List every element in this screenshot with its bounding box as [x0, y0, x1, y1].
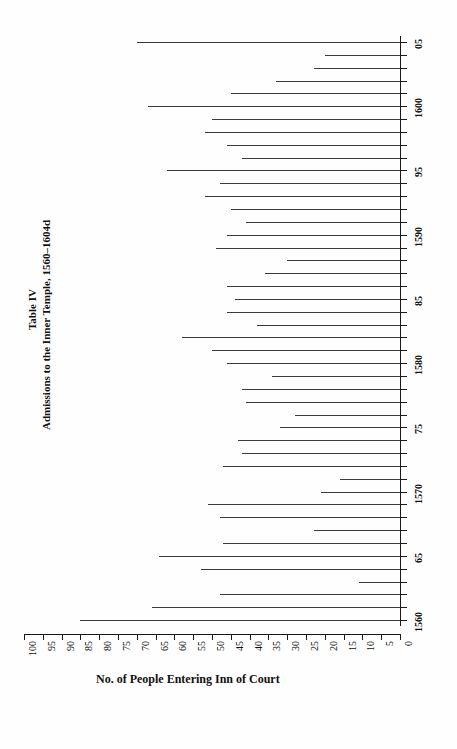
value-axis-tick-label: 50	[216, 641, 226, 651]
category-axis-tick	[401, 132, 407, 133]
category-axis-tick-label: 1560	[414, 612, 424, 632]
bar	[205, 196, 401, 197]
category-axis-tick	[401, 517, 407, 518]
bar	[265, 273, 400, 274]
category-axis-tick-label: 1590	[414, 227, 424, 247]
category-axis-tick	[401, 299, 407, 300]
value-axis-tick-label: 85	[84, 641, 94, 651]
value-axis-tick-label: 10	[366, 641, 376, 651]
category-axis-tick-label: 65	[414, 553, 424, 563]
value-axis-tick-label: 40	[254, 641, 264, 651]
value-axis-tick	[212, 634, 213, 640]
bar	[167, 170, 400, 171]
bar	[227, 145, 400, 146]
category-axis-tick	[401, 119, 407, 120]
category-axis-tick	[401, 81, 407, 82]
bar	[272, 376, 400, 377]
bar	[223, 543, 400, 544]
category-axis-tick	[401, 440, 407, 441]
bar	[242, 158, 400, 159]
value-axis-tick-label: 60	[178, 641, 188, 651]
bar	[246, 402, 400, 403]
bar	[242, 453, 400, 454]
value-axis-tick	[24, 634, 25, 640]
category-axis-tick	[401, 479, 407, 480]
category-axis-tick	[401, 569, 407, 570]
category-axis-tick	[401, 402, 407, 403]
bar	[231, 209, 400, 210]
category-axis-tick	[401, 325, 407, 326]
value-axis-tick	[381, 634, 382, 640]
category-axis-tick	[401, 594, 407, 595]
value-axis-tick	[62, 634, 63, 640]
bar	[227, 286, 400, 287]
category-axis-tick	[401, 106, 407, 107]
value-axis-tick-label: 20	[329, 641, 339, 651]
value-axis-tick	[80, 634, 81, 640]
bar	[212, 350, 400, 351]
bar	[314, 530, 401, 531]
value-axis-tick-label: 65	[160, 641, 170, 651]
category-axis-tick	[401, 273, 407, 274]
value-axis-tick-label: 90	[66, 641, 76, 651]
value-axis-tick-label: 80	[103, 641, 113, 651]
value-axis-tick	[287, 634, 288, 640]
category-axis-tick	[401, 543, 407, 544]
value-axis-tick	[174, 634, 175, 640]
category-axis-tick	[401, 556, 407, 557]
category-axis-tick	[401, 389, 407, 390]
value-axis-tick	[99, 634, 100, 640]
bar-chart-plot: 1009590858075706560555045403530252015105…	[0, 0, 457, 749]
bar	[220, 183, 401, 184]
bar	[227, 235, 400, 236]
value-axis-tick-label: 30	[291, 641, 301, 651]
category-axis-tick	[401, 620, 407, 621]
value-axis-tick-label: 5	[385, 641, 395, 646]
bar	[340, 479, 400, 480]
bar	[137, 42, 400, 43]
category-axis-tick	[401, 93, 407, 94]
category-axis-tick	[401, 68, 407, 69]
value-axis-tick-label: 100	[28, 641, 38, 656]
value-axis-tick-label: 55	[197, 641, 207, 651]
category-axis-tick	[401, 466, 407, 467]
value-axis-tick	[268, 634, 269, 640]
category-axis-tick	[401, 312, 407, 313]
value-axis-tick	[344, 634, 345, 640]
category-axis-tick	[401, 337, 407, 338]
category-axis-tick-label: 1580	[414, 355, 424, 375]
value-axis-tick	[193, 634, 194, 640]
bar	[276, 81, 400, 82]
value-axis-tick	[306, 634, 307, 640]
value-axis-tick-label: 45	[235, 641, 245, 651]
category-axis-tick	[401, 350, 407, 351]
bar	[238, 440, 400, 441]
category-axis-tick	[401, 286, 407, 287]
bar	[227, 312, 400, 313]
category-axis-tick	[401, 183, 407, 184]
value-axis-title: No. of People Entering Inn of Court	[96, 672, 280, 687]
category-axis-tick	[401, 607, 407, 608]
bar	[246, 222, 400, 223]
bar	[314, 68, 401, 69]
category-axis-tick	[401, 492, 407, 493]
value-axis-tick	[250, 634, 251, 640]
bar	[80, 620, 400, 621]
category-axis-tick	[401, 415, 407, 416]
value-axis-tick	[156, 634, 157, 640]
value-axis-tick-label: 15	[348, 641, 358, 651]
value-axis-tick	[118, 634, 119, 640]
bar	[295, 415, 400, 416]
category-axis-tick	[401, 196, 407, 197]
bar	[321, 492, 400, 493]
category-axis-tick	[401, 222, 407, 223]
figure-table-iv: Table IV Admissions to the Inner Temple,…	[0, 0, 457, 749]
bar	[242, 389, 400, 390]
page-canvas: Table IV Admissions to the Inner Temple,…	[0, 0, 457, 749]
value-axis-tick-label: 0	[404, 641, 414, 646]
category-axis-tick	[401, 363, 407, 364]
category-axis-tick	[401, 582, 407, 583]
bar	[359, 582, 400, 583]
value-axis-tick-label: 75	[122, 641, 132, 651]
bar	[280, 427, 400, 428]
